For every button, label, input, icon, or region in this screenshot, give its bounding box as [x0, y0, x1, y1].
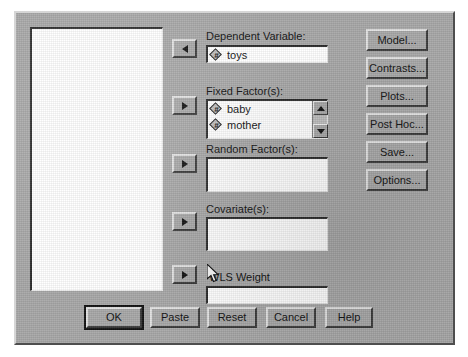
fixed-factors-scrollbar[interactable] [312, 101, 327, 138]
move-random-factors-button[interactable] [172, 154, 197, 173]
fixed-factors-box[interactable]: # baby # mother [206, 99, 328, 139]
variable-name: mother [227, 119, 261, 131]
variable-name: baby [227, 103, 251, 115]
covariates-label: Covariate(s): [206, 203, 269, 215]
list-item[interactable]: # toys [208, 47, 327, 63]
model-button[interactable]: Model... [366, 29, 428, 51]
save-button[interactable]: Save... [366, 141, 428, 163]
triangle-left-icon [182, 45, 188, 53]
random-factors-box[interactable] [206, 157, 328, 192]
caret-down-icon [317, 129, 325, 134]
variable-name: toys [227, 49, 247, 61]
source-variable-list[interactable] [30, 27, 163, 291]
post-hoc-button[interactable]: Post Hoc... [366, 113, 428, 135]
fixed-factors-label: Fixed Factor(s): [206, 85, 283, 97]
list-item[interactable]: # baby [208, 101, 327, 117]
triangle-right-icon [182, 271, 188, 279]
triangle-right-icon [182, 102, 188, 110]
random-factors-label: Random Factor(s): [206, 143, 298, 155]
help-button[interactable]: Help [325, 307, 373, 328]
dependent-variable-label: Dependent Variable: [206, 30, 305, 42]
triangle-right-icon [182, 160, 188, 168]
wls-weight-input[interactable] [206, 286, 328, 304]
plots-button[interactable]: Plots... [366, 85, 428, 107]
univariate-dialog: Dependent Variable: # toys Fixed Factor(… [14, 11, 455, 345]
list-item[interactable]: # mother [208, 117, 327, 133]
ok-button[interactable]: OK [86, 307, 142, 328]
scale-variable-icon: # [210, 49, 223, 62]
scale-variable-icon: # [210, 103, 223, 116]
dependent-variable-box[interactable]: # toys [206, 45, 328, 63]
scroll-down-button[interactable] [313, 124, 328, 138]
reset-button[interactable]: Reset [207, 307, 257, 328]
options-button[interactable]: Options... [366, 169, 428, 191]
scale-variable-icon: # [210, 119, 223, 132]
wls-weight-label: WLS Weight [209, 271, 270, 283]
caret-up-icon [317, 106, 325, 111]
move-wls-weight-button[interactable] [172, 265, 197, 284]
paste-button[interactable]: Paste [150, 307, 200, 328]
move-dependent-variable-button[interactable] [172, 39, 197, 58]
move-fixed-factors-button[interactable] [172, 96, 197, 115]
contrasts-button[interactable]: Contrasts... [366, 57, 428, 79]
covariates-box[interactable] [206, 217, 328, 251]
scroll-up-button[interactable] [313, 101, 328, 115]
cancel-button[interactable]: Cancel [266, 307, 316, 328]
triangle-right-icon [182, 218, 188, 226]
move-covariates-button[interactable] [172, 212, 197, 231]
